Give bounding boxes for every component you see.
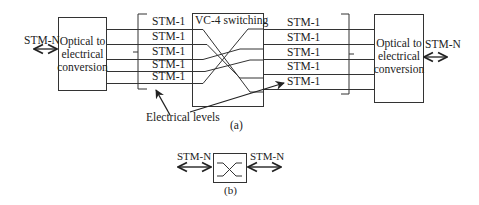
annotation-label: Electrical levels	[146, 111, 220, 123]
right-box-line-1: Optical to	[376, 37, 422, 50]
left-box-line-1: Optical to	[60, 35, 106, 48]
caption-b: (b)	[224, 184, 237, 197]
left-channel-label: STM-1	[152, 58, 185, 70]
right-box-line-2: electrical	[378, 50, 420, 62]
sdh-cross-connect-diagram: STM-N Optical to electrical conversion S…	[0, 0, 479, 205]
right-bracket	[341, 14, 354, 94]
right-channel-label: STM-1	[287, 31, 320, 43]
left-box-line-3: conversion	[57, 61, 108, 73]
left-channel-label: STM-1	[152, 15, 185, 27]
left-bracket	[133, 14, 147, 89]
switch-label: VC-4 switching	[195, 14, 268, 27]
right-port-label: STM-N	[425, 38, 461, 50]
left-channel-label: STM-1	[152, 30, 185, 42]
left-box-line-2: electrical	[61, 48, 103, 60]
caption-a: (a)	[230, 119, 243, 132]
b-cross-symbol	[217, 163, 242, 176]
switching-paths	[192, 29, 263, 92]
right-channel-label: STM-1	[287, 46, 320, 58]
left-port-label: STM-N	[24, 34, 60, 46]
right-channel-label: STM-1	[287, 75, 320, 87]
annotation-arrow-right	[190, 83, 284, 112]
b-switch-box	[214, 154, 247, 183]
right-channel-label: STM-1	[287, 16, 320, 28]
left-channel-label: STM-1	[152, 45, 185, 57]
b-left-port-label: STM-N	[177, 150, 211, 162]
right-channel-label: STM-1	[287, 60, 320, 72]
right-box-line-3: conversion	[374, 63, 425, 75]
b-right-port-label: STM-N	[250, 150, 284, 162]
left-channel-label: STM-1	[152, 70, 185, 82]
